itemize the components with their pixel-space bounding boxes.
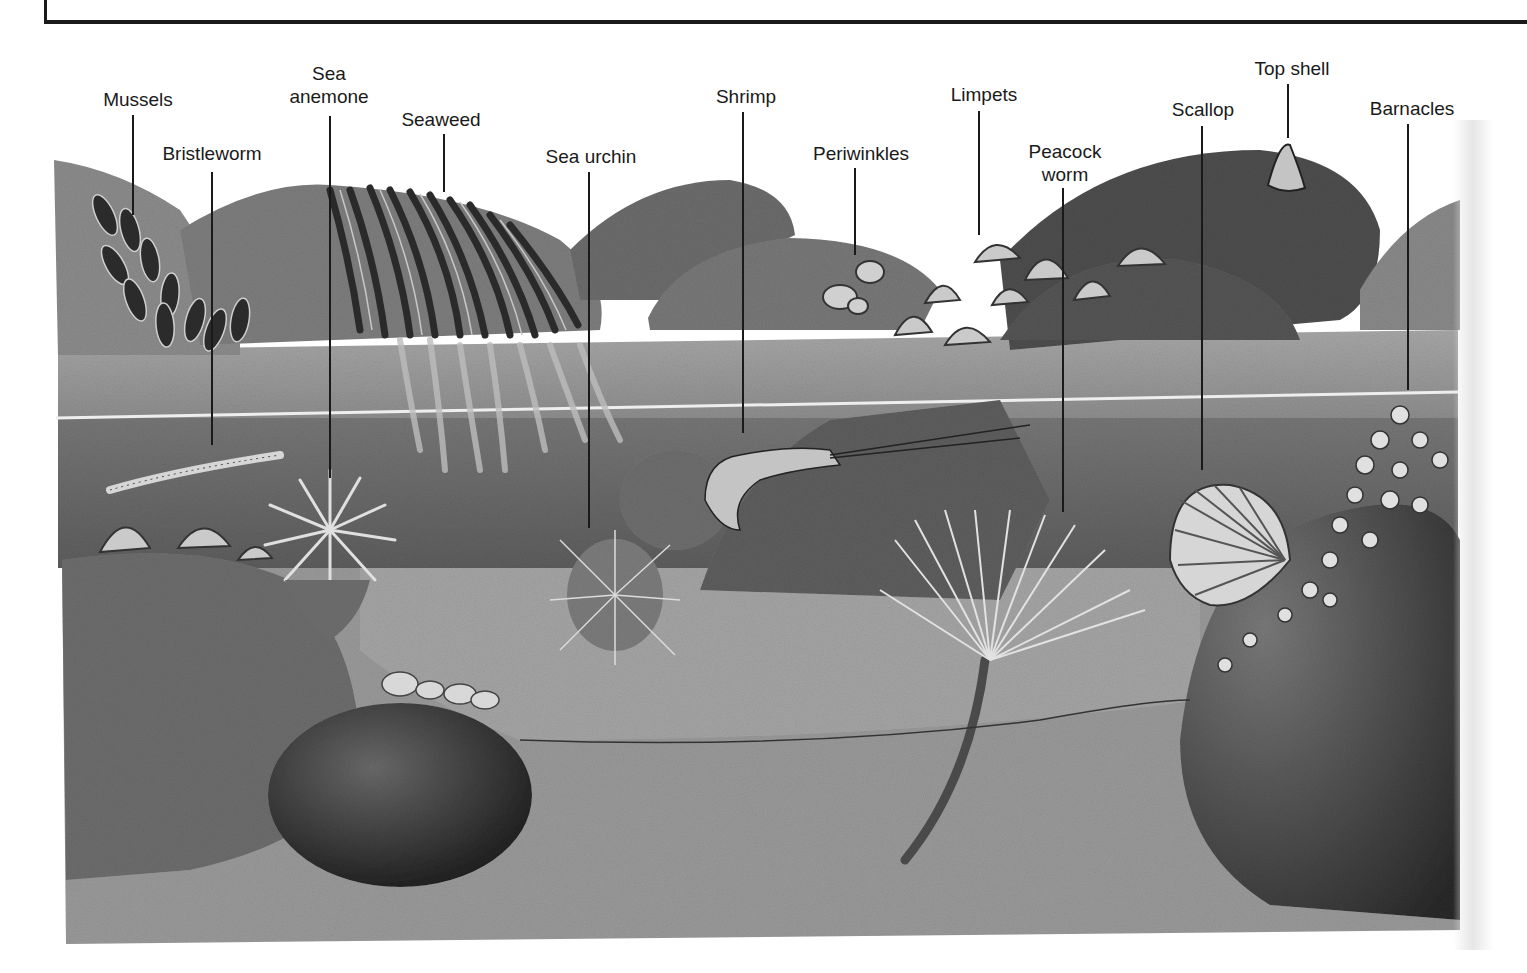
- top-shell: [1268, 145, 1305, 191]
- label-sea-urchin: Sea urchin: [546, 145, 637, 168]
- label-seaweed: Seaweed: [401, 108, 480, 131]
- label-barnacles: Barnacles: [1370, 97, 1455, 120]
- leader-limpets: [978, 111, 980, 235]
- label-shrimp: Shrimp: [716, 85, 776, 108]
- leader-barnacles: [1407, 124, 1409, 390]
- leader-top-shell: [1287, 84, 1289, 138]
- leader-peacock-worm: [1062, 188, 1064, 512]
- label-limpets: Limpets: [951, 83, 1018, 106]
- leader-periwinkles: [854, 168, 856, 255]
- label-sea-anemone-line2: anemone: [289, 85, 368, 108]
- leader-scallop: [1201, 126, 1203, 470]
- leader-seaweed: [443, 134, 445, 192]
- label-sea-anemone-line1: Sea: [289, 62, 368, 85]
- label-mussels: Mussels: [103, 88, 173, 111]
- page-edge-shadow: [1453, 120, 1493, 950]
- label-periwinkles: Periwinkles: [813, 142, 909, 165]
- label-scallop: Scallop: [1172, 98, 1234, 121]
- label-top-shell: Top shell: [1255, 57, 1330, 80]
- leader-sea-urchin: [588, 172, 590, 528]
- label-sea-anemone: Sea anemone: [289, 62, 368, 108]
- label-peacock-worm-line2: worm: [1029, 163, 1102, 186]
- label-peacock-worm-line1: Peacock: [1029, 140, 1102, 163]
- leader-mussels: [132, 115, 134, 215]
- label-peacock-worm: Peacock worm: [1029, 140, 1102, 186]
- leader-shrimp: [742, 112, 744, 433]
- leader-bristleworm: [211, 172, 213, 445]
- boulder-front: [268, 703, 532, 887]
- leader-sea-anemone: [329, 116, 331, 478]
- label-bristleworm: Bristleworm: [162, 142, 261, 165]
